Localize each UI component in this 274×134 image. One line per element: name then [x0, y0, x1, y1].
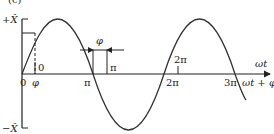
sine-phase-diagram: (c) +X̂ −X̂ ωt ωt + φ φ 0 π 2π 0 φ π 2π …: [0, 0, 274, 134]
x-axis-label-lower: ωt + φ: [242, 77, 274, 88]
tick-below-3pi: 3π: [224, 77, 237, 88]
tick-below-0: 0: [20, 77, 26, 88]
y-axis-top-label: +X̂: [2, 14, 18, 25]
tick-above-2pi: 2π: [174, 54, 187, 65]
tick-below-2pi: 2π: [166, 77, 179, 88]
tick-above-pi: π: [110, 62, 117, 73]
tick-above-0: 0: [38, 62, 44, 73]
panel-label: (c): [8, 0, 22, 5]
phase-label: φ: [96, 35, 103, 46]
tick-below-phi: φ: [32, 77, 39, 88]
tick-below-pi: π: [84, 77, 91, 88]
x-axis-label-upper: ωt: [255, 58, 268, 69]
y-axis-bottom-label: −X̂: [2, 123, 18, 134]
